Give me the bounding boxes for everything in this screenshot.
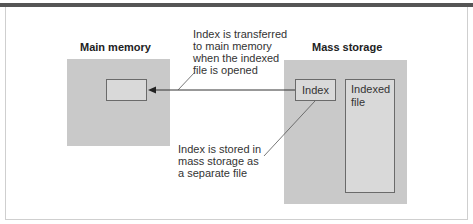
arrow-head-icon: [148, 87, 156, 94]
transfer-note-leader: [178, 72, 195, 90]
connector-lines: [0, 0, 473, 224]
storage-note-leader: [264, 101, 315, 156]
